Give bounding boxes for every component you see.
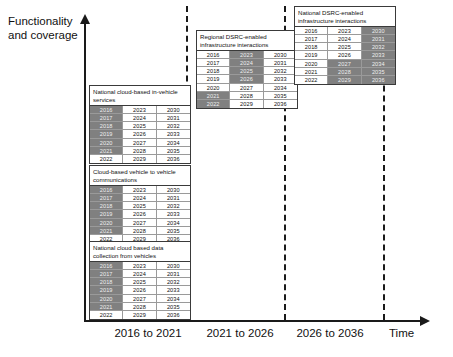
table-national-cloud-based-data-collection-from-vehicles: National cloud based data collection fro… [89,241,191,320]
year-cell: 2025 [328,43,361,51]
chart-canvas: Functionality and coverage Time 2016 to … [0,0,453,357]
year-cell: 2023 [123,106,156,114]
year-cell: 2033 [362,51,395,59]
year-cell: 2036 [264,100,297,108]
year-cell: 2021 [90,227,123,235]
x-axis-arrowhead [420,316,430,326]
year-cell: 2030 [157,262,190,270]
table-grid: 2016202320302017202420312018202520322019… [295,27,395,84]
year-cell: 2031 [157,194,190,202]
year-cell: 2032 [264,67,297,75]
year-cell: 2030 [157,186,190,194]
year-cell: 2021 [90,147,123,155]
year-cell: 2032 [157,278,190,286]
year-cell: 2018 [90,122,123,130]
year-cell: 2025 [123,202,156,210]
year-cell: 2020 [90,219,123,227]
year-cell: 2031 [157,114,190,122]
year-cell: 2016 [197,51,230,59]
year-cell: 2031 [157,270,190,278]
year-cell: 2036 [362,76,395,84]
year-cell: 2035 [264,92,297,100]
year-cell: 2020 [295,60,328,68]
year-cell: 2023 [123,186,156,194]
year-cell: 2018 [295,43,328,51]
year-cell: 2031 [362,35,395,43]
table-grid: 2016202320302017202420312018202520322019… [197,51,297,108]
year-cell: 2024 [123,270,156,278]
year-cell: 2026 [123,210,156,218]
y-axis-line [84,22,86,322]
year-cell: 2032 [157,122,190,130]
year-cell: 2016 [90,186,123,194]
table-grid: 2016202320302017202420312018202520322019… [90,186,190,243]
year-cell: 2023 [123,262,156,270]
year-cell: 2034 [157,295,190,303]
year-cell: 2030 [157,106,190,114]
year-cell: 2018 [90,278,123,286]
table-title: Regional DSRC-enabled infrastructure int… [197,31,297,51]
table-title: National cloud-based in-vehicle services [90,86,190,106]
year-cell: 2024 [123,114,156,122]
year-cell: 2022 [295,76,328,84]
year-cell: 2030 [362,27,395,35]
year-cell: 2029 [123,155,156,163]
year-cell: 2018 [197,67,230,75]
year-cell: 2035 [362,68,395,76]
year-cell: 2019 [295,51,328,59]
year-cell: 2027 [123,139,156,147]
table-national-dsrc-enabled-infrastructure-interactions: National DSRC-enabled infrastructure int… [294,6,396,85]
year-cell: 2029 [328,76,361,84]
year-cell: 2016 [90,262,123,270]
year-cell: 2017 [90,270,123,278]
year-cell: 2019 [90,210,123,218]
year-cell: 2027 [123,295,156,303]
year-cell: 2019 [90,130,123,138]
year-cell: 2023 [230,51,263,59]
year-cell: 2024 [230,59,263,67]
year-cell: 2031 [264,59,297,67]
year-cell: 2025 [123,278,156,286]
year-cell: 2026 [123,286,156,294]
year-cell: 2027 [123,219,156,227]
x-tick-label-2: 2021 to 2026 [190,327,290,339]
year-cell: 2027 [328,60,361,68]
year-cell: 2036 [157,155,190,163]
table-title: Cloud-based vehicle to vehicle communica… [90,166,190,186]
year-cell: 2035 [157,303,190,311]
year-cell: 2033 [157,210,190,218]
year-cell: 2019 [197,75,230,83]
year-cell: 2032 [157,202,190,210]
year-cell: 2028 [123,227,156,235]
year-cell: 2028 [123,147,156,155]
year-cell: 2022 [90,155,123,163]
year-cell: 2036 [157,311,190,319]
year-cell: 2017 [197,59,230,67]
year-cell: 2017 [295,35,328,43]
year-cell: 2033 [157,130,190,138]
year-cell: 2029 [230,100,263,108]
year-cell: 2025 [123,122,156,130]
year-cell: 2026 [123,130,156,138]
year-cell: 2020 [197,84,230,92]
year-cell: 2027 [230,84,263,92]
year-cell: 2020 [90,139,123,147]
year-cell: 2033 [264,75,297,83]
year-cell: 2026 [230,75,263,83]
table-national-cloud-based-in-vehicle-services: National cloud-based in-vehicle services… [89,85,191,164]
x-tick-label-3: 2026 to 2036 [280,327,380,339]
x-axis-label: Time [389,327,414,339]
year-cell: 2017 [90,114,123,122]
year-cell: 2035 [157,227,190,235]
table-regional-dsrc-enabled-infrastructure-interactions: Regional DSRC-enabled infrastructure int… [196,30,298,109]
table-grid: 2016202320302017202420312018202520322019… [90,262,190,319]
year-cell: 2018 [90,202,123,210]
year-cell: 2030 [264,51,297,59]
year-cell: 2028 [328,68,361,76]
year-cell: 2019 [90,286,123,294]
year-cell: 2021 [197,92,230,100]
x-axis-line [84,320,424,322]
year-cell: 2021 [90,303,123,311]
year-cell: 2028 [123,303,156,311]
table-grid: 2016202320302017202420312018202520322019… [90,106,190,163]
